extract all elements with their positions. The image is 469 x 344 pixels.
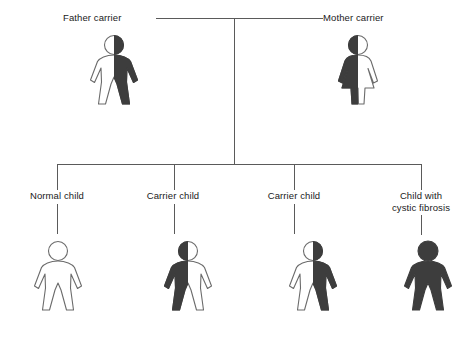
figure-father-carrier bbox=[86, 34, 142, 106]
label-carrier-child-1: Carrier child bbox=[127, 190, 219, 202]
sibling-stem-bottom-2 bbox=[174, 204, 175, 234]
figure-mother-carrier bbox=[330, 34, 386, 106]
label-father-carrier: Father carrier bbox=[63, 12, 121, 24]
label-child-cystic-fibrosis-line1: Child with bbox=[400, 190, 442, 201]
label-normal-child: Normal child bbox=[12, 190, 102, 202]
sibling-stem-bottom-4 bbox=[421, 215, 422, 235]
label-child-cystic-fibrosis-line2: cystic fibrosis bbox=[392, 202, 450, 213]
label-mother-carrier: Mother carrier bbox=[323, 12, 384, 24]
sibling-stem-top-1 bbox=[57, 164, 58, 190]
pedigree-diagram: Father carrier Mother carrier bbox=[0, 0, 469, 344]
mating-line bbox=[156, 18, 323, 19]
figure-carrier-child-1 bbox=[160, 238, 216, 314]
figure-child-cystic-fibrosis bbox=[400, 238, 456, 314]
figure-normal-child bbox=[30, 238, 86, 314]
sibling-stem-top-2 bbox=[174, 164, 175, 190]
figure-carrier-child-2 bbox=[285, 238, 341, 314]
label-carrier-child-2: Carrier child bbox=[248, 190, 340, 202]
descent-line bbox=[234, 18, 235, 164]
sibship-bar bbox=[57, 164, 422, 165]
sibling-stem-top-3 bbox=[294, 164, 295, 190]
sibling-stem-top-4 bbox=[421, 164, 422, 190]
sibling-stem-bottom-3 bbox=[294, 204, 295, 234]
sibling-stem-bottom-1 bbox=[57, 204, 58, 234]
label-child-cystic-fibrosis: Child with cystic fibrosis bbox=[381, 190, 461, 213]
